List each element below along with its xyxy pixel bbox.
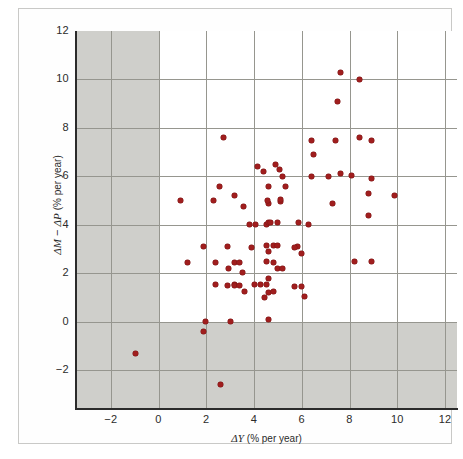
x-axis-label-unit: (% per year) [247, 433, 302, 444]
x-tick-label: −2 [96, 413, 126, 425]
x-tick-label: 12 [430, 413, 460, 425]
scatter-point [228, 319, 233, 324]
scatter-point [237, 260, 242, 265]
scatter-point [306, 222, 311, 227]
scatter-point [247, 222, 252, 227]
gridline-vertical [159, 31, 160, 409]
scatter-point [273, 162, 278, 167]
scatter-point [266, 276, 271, 281]
x-tick-label: 0 [144, 413, 174, 425]
scatter-point [240, 270, 245, 275]
scatter-point [185, 260, 190, 265]
gridline-vertical [254, 31, 255, 409]
x-axis-label-variable: Y [238, 432, 244, 444]
scatter-point [311, 152, 316, 157]
scatter-point [366, 191, 371, 196]
y-axis-label-minus: − [51, 230, 63, 236]
gridline-vertical [302, 31, 303, 409]
scatter-point [262, 295, 267, 300]
scatter-point [252, 282, 257, 287]
scatter-point [203, 319, 208, 324]
scatter-point [221, 135, 226, 140]
scatter-point [352, 259, 357, 264]
y-axis-label: ΔM − ΔP (% per year) [51, 105, 63, 305]
scatter-point [292, 284, 297, 289]
gridline-horizontal [75, 322, 457, 323]
scatter-point [326, 174, 331, 179]
gridline-horizontal [75, 79, 457, 80]
x-tick-label: 6 [287, 413, 317, 425]
scatter-point [275, 243, 280, 248]
scatter-point [213, 282, 218, 287]
scatter-point [232, 193, 237, 198]
y-tick-label: 0 [41, 315, 69, 327]
scatter-point [357, 135, 362, 140]
scatter-point [299, 284, 304, 289]
x-tick-label: 2 [191, 413, 221, 425]
scatter-point [264, 259, 269, 264]
x-tick-label: 4 [239, 413, 269, 425]
figure-frame: −2024681012 −2024681012 ΔY (% per year) … [18, 8, 452, 444]
gridline-vertical [397, 31, 398, 409]
gridline-vertical [445, 31, 446, 409]
scatter-point [335, 99, 340, 104]
scatter-point [333, 138, 338, 143]
x-tick-label: 8 [335, 413, 365, 425]
scatter-point [271, 260, 276, 265]
y-tick-label: 12 [41, 24, 69, 36]
scatter-point [309, 174, 314, 179]
gridline-horizontal [75, 370, 457, 371]
scatter-point [266, 184, 271, 189]
y-tick-label: −2 [41, 363, 69, 375]
scatter-point [309, 138, 314, 143]
scatter-point [266, 317, 271, 322]
scatter-point [241, 204, 246, 209]
scatter-point [278, 197, 283, 202]
scatter-point [330, 201, 335, 206]
scatter-point [255, 164, 260, 169]
gridline-horizontal [75, 273, 457, 274]
scatter-point [277, 167, 282, 172]
scatter-point [213, 260, 218, 265]
scatter-point [237, 283, 242, 288]
x-axis-label: ΔY (% per year) [75, 432, 458, 444]
scatter-point [266, 249, 271, 254]
scatter-point [264, 282, 269, 287]
scatter-point [369, 138, 374, 143]
scatter-point [225, 244, 230, 249]
scatter-point [271, 289, 276, 294]
scatter-point [264, 243, 269, 248]
scatter-point [366, 213, 371, 218]
scatter-point [302, 294, 307, 299]
x-tick-label: 10 [382, 413, 412, 425]
gridline-vertical [350, 31, 351, 409]
scatter-point [217, 184, 222, 189]
plot-area [75, 31, 457, 409]
scatter-point [242, 289, 247, 294]
figure-container: −2024681012 −2024681012 ΔY (% per year) … [0, 0, 463, 459]
gridline-vertical [206, 31, 207, 409]
scatter-point [299, 251, 304, 256]
scatter-point [261, 169, 266, 174]
shaded-region-negative-y [75, 322, 457, 409]
y-axis-label-delta-2: Δ [51, 220, 63, 226]
y-axis-label-variable-p: P [51, 213, 63, 220]
scatter-point [369, 176, 374, 181]
y-axis-line [75, 31, 77, 410]
scatter-point [292, 245, 297, 250]
scatter-point [296, 220, 301, 225]
scatter-point [225, 283, 230, 288]
y-axis-label-delta-1: Δ [51, 248, 63, 254]
gridline-horizontal [75, 128, 457, 129]
scatter-point [369, 259, 374, 264]
scatter-point [226, 266, 231, 271]
gridline-vertical [111, 31, 112, 409]
x-axis-line [75, 408, 458, 410]
y-axis-label-unit: (% per year) [52, 155, 63, 210]
scatter-point [178, 198, 183, 203]
scatter-point [211, 198, 216, 203]
scatter-point [253, 222, 258, 227]
gridline-horizontal [75, 176, 457, 177]
scatter-point [265, 198, 270, 203]
y-tick-label: 10 [41, 72, 69, 84]
